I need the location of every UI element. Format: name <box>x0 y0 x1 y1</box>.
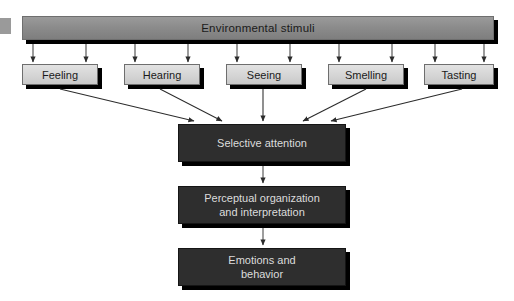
stage-box-perceptual-organization: Perceptual organization and interpretati… <box>178 186 346 224</box>
left-edge-fragment <box>0 18 11 34</box>
sense-box-smelling: Smelling <box>328 64 404 85</box>
stimuli-to-sense-arrows <box>33 44 484 62</box>
stage-label-selective-attention: Selective attention <box>217 136 307 150</box>
perception-process-diagram: Environmental stimuli Feeling Hearing Se… <box>0 0 514 301</box>
environmental-stimuli-label: Environmental stimuli <box>201 22 315 34</box>
stage-label-perceptual-organization: Perceptual organization and interpretati… <box>204 191 320 219</box>
sense-box-seeing: Seeing <box>226 64 302 85</box>
sense-label-hearing: Hearing <box>143 69 182 81</box>
senses-to-attention-arrows <box>60 89 462 121</box>
sense-label-tasting: Tasting <box>442 69 477 81</box>
sense-label-smelling: Smelling <box>345 69 387 81</box>
environmental-stimuli-bar: Environmental stimuli <box>22 16 494 40</box>
stage-label-emotions-and-behavior: Emotions and behavior <box>228 253 295 281</box>
stage-box-emotions-and-behavior: Emotions and behavior <box>178 248 346 286</box>
sense-box-tasting: Tasting <box>424 64 494 85</box>
sense-label-feeling: Feeling <box>42 69 78 81</box>
sense-box-hearing: Hearing <box>124 64 200 85</box>
sense-box-feeling: Feeling <box>22 64 98 85</box>
sense-label-seeing: Seeing <box>247 69 281 81</box>
stage-box-selective-attention: Selective attention <box>178 124 346 162</box>
